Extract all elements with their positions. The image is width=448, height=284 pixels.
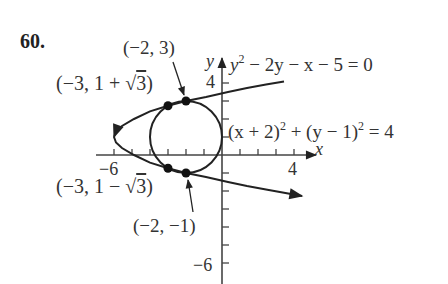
tick-label-y-4: 4 — [206, 73, 215, 91]
circle-equation: (x + 2)2 + (y − 1)2 = 4 — [228, 122, 394, 141]
eq-exp: 2 — [238, 52, 244, 66]
label-close: ) — [146, 72, 153, 94]
eq-part2: + (y − 1) — [286, 121, 358, 142]
eq-rhs: = 4 — [364, 121, 394, 142]
point-neg2-3 — [182, 97, 191, 106]
point-neg2-neg1 — [182, 169, 191, 178]
eq-part1: (x + 2) — [228, 121, 280, 142]
circle-curve — [150, 101, 222, 173]
label-point-neg3-1plussqrt3: (−3, 1 + √3) — [56, 73, 153, 93]
label-open: (−3, 1 + — [56, 72, 125, 94]
eq-exp1: 2 — [280, 119, 286, 133]
y-axis-label: y — [206, 52, 214, 70]
label-open: (−3, 1 − — [56, 175, 125, 197]
tick-label-y-neg6: −6 — [193, 256, 212, 274]
callout-arrow-top — [173, 62, 184, 95]
point-neg3-1minussqrt3 — [164, 164, 173, 173]
label-close: ) — [146, 175, 153, 197]
label-point-neg2-3: (−2, 3) — [123, 38, 175, 57]
eq-exp2: 2 — [358, 119, 364, 133]
eq-rest: − 2y − x − 5 = 0 — [244, 54, 372, 75]
graph-canvas — [0, 0, 448, 284]
label-radicand: 3 — [136, 72, 146, 94]
label-point-neg2-neg1: (−2, −1) — [133, 216, 196, 235]
label-point-neg3-1minussqrt3: (−3, 1 − √3) — [56, 176, 153, 196]
callout-arrow-bottom — [188, 180, 193, 212]
tick-label-x-4: 4 — [288, 160, 297, 178]
parabola-equation: y2 − 2y − x − 5 = 0 — [230, 55, 373, 74]
x-axis-label: x — [315, 140, 323, 158]
label-radicand: 3 — [136, 175, 146, 197]
point-neg3-1plussqrt3 — [164, 101, 173, 110]
